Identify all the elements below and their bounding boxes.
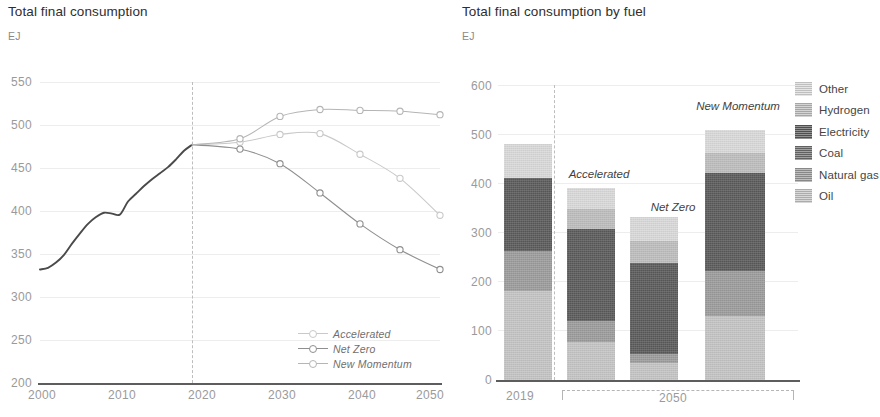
texture-overlay: [567, 342, 615, 380]
fuel-legend-item-natural-gas[interactable]: Natural gas: [795, 164, 879, 186]
fuel-legend-item-oil[interactable]: Oil: [795, 186, 879, 208]
texture-overlay: [567, 229, 615, 321]
data-point-marker: [357, 221, 363, 227]
stacked-bar-2019[interactable]: [504, 85, 552, 380]
data-point-marker: [437, 212, 443, 218]
bar-label-accelerated: Accelerated: [556, 168, 642, 181]
fuel-label-hydrogen: Hydrogen: [819, 104, 870, 116]
stacked-bar-new-momentum[interactable]: [705, 85, 765, 380]
texture-overlay: [504, 291, 552, 380]
texture-overlay: [630, 217, 678, 241]
bar-label-net-zero: Net Zero: [636, 201, 710, 214]
bar-segment-other: [504, 144, 552, 178]
texture-overlay: [504, 251, 552, 290]
legend-label-net-zero: Net Zero: [333, 343, 375, 355]
line-swatch-new-momentum: [298, 359, 328, 369]
bar-segment-other: [630, 217, 678, 241]
bar-chart-panel: Total final consumption by fuel EJ 0 100…: [450, 0, 880, 417]
bar-segment-electricity: [567, 229, 615, 321]
fuel-swatch-coal: [795, 146, 812, 160]
data-point-marker: [317, 190, 323, 196]
data-point-marker: [437, 112, 443, 118]
texture-overlay: [567, 321, 615, 342]
line-series-new-momentum: [192, 109, 440, 145]
texture-overlay: [630, 263, 678, 354]
legend-label-accelerated: Accelerated: [333, 328, 391, 340]
line-series-accelerated: [192, 132, 440, 215]
line-swatch-net-zero: [298, 344, 328, 354]
right-x-axis: [496, 380, 800, 382]
data-point-marker: [357, 151, 363, 157]
fuel-swatch-natural-gas: [795, 168, 812, 182]
fuel-legend-item-other[interactable]: Other: [795, 78, 879, 100]
bar-segment-electricity: [705, 173, 765, 271]
bar-label-new-momentum: New Momentum: [692, 100, 784, 113]
data-point-marker: [277, 113, 283, 119]
fuel-label-natural-gas: Natural gas: [819, 169, 879, 181]
line-series-history: [40, 145, 192, 270]
texture-overlay: [630, 354, 678, 362]
data-point-marker: [397, 247, 403, 253]
bar-segment-hydrogen: [630, 241, 678, 264]
bar-segment-hydrogen: [705, 153, 765, 173]
data-point-marker: [437, 266, 443, 272]
fuel-legend-item-hydrogen[interactable]: Hydrogen: [795, 100, 879, 122]
bar-segment-electricity: [630, 263, 678, 354]
texture-overlay: [504, 178, 552, 251]
texture-overlay: [705, 153, 765, 173]
fuel-swatch-other: [795, 82, 812, 96]
stacked-bar-net-zero[interactable]: [630, 85, 678, 380]
stacked-bar-accelerated[interactable]: [567, 85, 615, 380]
fuel-label-oil: Oil: [819, 190, 833, 202]
fuel-legend-item-electricity[interactable]: Electricity: [795, 121, 879, 143]
bar-segment-oil: [504, 291, 552, 380]
bar-segment-natural-gas: [630, 354, 678, 362]
bar-segment-natural-gas: [504, 251, 552, 290]
legend-label-new-momentum: New Momentum: [333, 358, 412, 370]
data-point-marker: [237, 146, 243, 152]
data-point-marker: [397, 175, 403, 181]
texture-overlay: [567, 209, 615, 229]
legend-item-new-momentum[interactable]: New Momentum: [298, 356, 412, 371]
bar-segment-oil: [705, 316, 765, 380]
data-point-marker: [317, 106, 323, 112]
texture-overlay: [630, 241, 678, 264]
data-point-marker: [397, 108, 403, 114]
fuel-swatch-electricity: [795, 125, 812, 139]
fuel-label-coal: Coal: [819, 147, 843, 159]
texture-overlay: [705, 130, 765, 153]
line-swatch-accelerated: [298, 329, 328, 339]
texture-overlay: [705, 271, 765, 316]
data-point-marker: [357, 107, 363, 113]
texture-overlay: [630, 363, 678, 380]
texture-overlay: [504, 144, 552, 178]
texture-overlay: [705, 173, 765, 271]
bar-segment-oil: [630, 363, 678, 380]
bar-segment-electricity: [504, 178, 552, 251]
fuel-legend-item-coal[interactable]: Coal: [795, 143, 879, 165]
fuel-label-electricity: Electricity: [819, 126, 869, 138]
bar-segment-other: [567, 188, 615, 209]
bar-label-new-momentum-text: New Momentum: [696, 100, 780, 112]
legend-item-accelerated[interactable]: Accelerated: [298, 326, 412, 341]
bar-segment-natural-gas: [705, 271, 765, 316]
data-point-marker: [277, 131, 283, 137]
bar-segment-hydrogen: [567, 209, 615, 229]
line-chart-panel: Total final consumption EJ 200 250 300 3…: [0, 0, 450, 417]
bar-segment-natural-gas: [567, 321, 615, 342]
data-point-marker: [277, 161, 283, 167]
fuel-swatch-oil: [795, 189, 812, 203]
fuel-legend: Other Hydrogen Electricity Coal Natural …: [795, 78, 879, 207]
line-chart-legend: Accelerated Net Zero New Momentum: [298, 326, 412, 371]
data-point-marker: [317, 131, 323, 137]
data-point-marker: [237, 136, 243, 142]
fuel-label-other: Other: [819, 83, 848, 95]
right-xtick-2050: 2050: [655, 392, 691, 404]
fuel-swatch-hydrogen: [795, 103, 812, 117]
texture-overlay: [567, 188, 615, 209]
bar-segment-other: [705, 130, 765, 153]
right-xtick-2019: 2019: [506, 390, 534, 402]
bar-segment-oil: [567, 342, 615, 380]
texture-overlay: [705, 316, 765, 380]
legend-item-net-zero[interactable]: Net Zero: [298, 341, 412, 356]
